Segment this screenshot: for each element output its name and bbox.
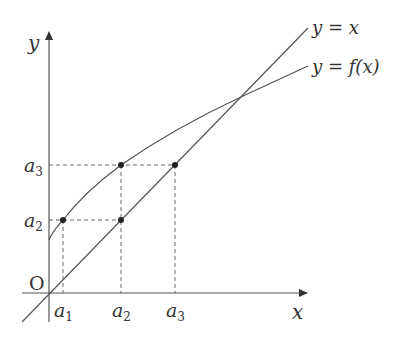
label-y-equals-fx: y = f(x) xyxy=(311,56,380,77)
origin-label: O xyxy=(29,272,45,294)
y-axis-label: y xyxy=(27,31,40,55)
x-tick-a3: a3 xyxy=(166,299,185,324)
line-y-equals-x xyxy=(22,28,308,322)
diagram-canvas: y x O y = x y = f(x) a1 a2 a3 a2 a3 xyxy=(0,0,401,340)
label-y-equals-x: y = x xyxy=(311,17,359,38)
x-axis-arrow-icon xyxy=(299,289,308,297)
x-axis-label: x xyxy=(292,300,303,324)
x-tick-a2: a2 xyxy=(112,299,131,324)
y-tick-a2: a2 xyxy=(24,209,43,234)
y-axis-arrow-icon xyxy=(45,31,53,40)
y-tick-a3: a3 xyxy=(24,154,43,179)
iteration-points xyxy=(60,162,178,223)
curve-f xyxy=(49,66,308,240)
x-tick-a1: a1 xyxy=(54,299,73,324)
